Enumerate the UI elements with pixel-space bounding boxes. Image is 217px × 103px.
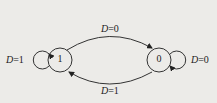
loop-label-1: D=1	[6, 54, 24, 65]
transition-label-0-to-1: D=1	[101, 85, 119, 96]
arrow-1-to-0	[67, 36, 152, 50]
loop-arrow-0	[170, 51, 186, 69]
loop-label-0: D=0	[191, 54, 209, 65]
state-0-label: 0	[149, 53, 169, 64]
state-1-label: 1	[50, 53, 70, 64]
loop-arrow-1	[33, 51, 49, 69]
transition-label-1-to-0: D=0	[101, 23, 119, 34]
arrow-0-to-1	[69, 72, 152, 84]
